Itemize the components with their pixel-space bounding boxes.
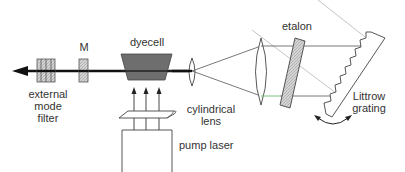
dyecell	[121, 54, 172, 80]
focusing-lens	[172, 58, 195, 86]
label-filter-3: filter	[38, 112, 59, 124]
label-dyecell: dyecell	[130, 36, 164, 48]
label-grating-1: Littrow	[353, 90, 385, 102]
rotation-arrow-icon	[314, 115, 352, 124]
label-cylindrical-2: lens	[201, 115, 222, 127]
label-grating-2: grating	[352, 102, 386, 114]
expanding-rays	[192, 46, 261, 96]
output-mirror	[79, 59, 88, 82]
label-etalon: etalon	[282, 20, 312, 32]
label-cylindrical-1: cylindrical	[187, 103, 235, 115]
external-mode-filter	[37, 59, 55, 82]
label-mirror: M	[79, 41, 88, 53]
dye-laser-diagram: M dyecell etalon external mode filter cy…	[0, 0, 405, 172]
etalon	[280, 38, 305, 108]
label-filter-1: external	[28, 88, 67, 100]
pump-laser	[122, 130, 172, 172]
label-pump-laser: pump laser	[179, 139, 234, 151]
pump-arrows	[132, 87, 162, 130]
label-filter-2: mode	[34, 100, 62, 112]
cylindrical-lens	[119, 111, 176, 118]
